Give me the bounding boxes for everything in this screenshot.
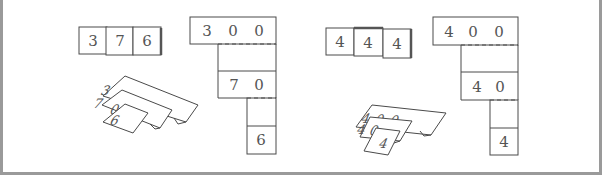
- folded-stack-2: 4 0 0 4 0 4: [355, 105, 446, 155]
- digit: 6: [256, 131, 266, 149]
- example-2: 4 4 4 4 0 0 4 0 4 4 0 0 4: [326, 17, 518, 155]
- digit: 4: [392, 35, 402, 53]
- digit: 6: [142, 32, 152, 50]
- digit: 0: [495, 78, 505, 96]
- place-value-diagram: 3 7 6 3 0 0 7 0 6 3 0 0: [0, 0, 615, 179]
- digit: 4: [472, 78, 482, 96]
- expanded-cards-2: 4 0 0 4 0 4: [433, 17, 518, 155]
- expanded-cards-1: 3 0 0 7 0 6: [190, 17, 276, 154]
- digit: 0: [254, 22, 264, 40]
- combined-cards-2: 4 4 4: [326, 28, 411, 58]
- digit: 4: [444, 23, 454, 41]
- digit: 3: [202, 22, 212, 40]
- digit: 0: [468, 23, 478, 41]
- digit: 3: [88, 32, 98, 50]
- digit: 4: [363, 34, 373, 52]
- example-1: 3 7 6 3 0 0 7 0 6 3 0 0: [79, 17, 276, 154]
- digit: 0: [494, 23, 504, 41]
- digit: 4: [335, 33, 345, 51]
- digit: 7: [229, 76, 239, 94]
- digit: 0: [228, 22, 238, 40]
- folded-stack-1: 3 0 0 7 0 6: [92, 76, 198, 133]
- combined-cards-1: 3 7 6: [79, 27, 161, 55]
- digit: 7: [115, 32, 125, 50]
- digit: 4: [499, 133, 509, 151]
- digit: 0: [254, 76, 264, 94]
